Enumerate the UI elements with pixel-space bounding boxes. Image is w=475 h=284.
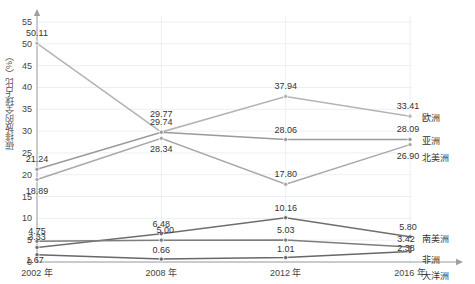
data-label: 28.34 [150, 144, 173, 154]
data-point [284, 216, 288, 220]
x-tick-label: 2012 年 [270, 266, 302, 279]
data-label: 5.80 [399, 222, 417, 232]
x-tick-label: 2008 年 [146, 266, 178, 279]
y-tick-label: 55 [12, 17, 32, 27]
emissions-line-chart: 碳排放的全球占比（%） 0510152025303540455055 2002 … [0, 0, 475, 284]
data-label: 5.03 [277, 225, 295, 235]
y-tick-label: 45 [12, 61, 32, 71]
data-label: 28.06 [274, 125, 297, 135]
series-lines [35, 41, 412, 261]
y-tick-label: 30 [12, 126, 32, 136]
legend-item-亚洲: 亚洲 [422, 134, 440, 147]
data-point [35, 41, 39, 45]
y-tick-label: 35 [12, 104, 32, 114]
legend-item-大洋洲: 大洋洲 [422, 269, 449, 282]
series-line-非洲 [37, 240, 410, 247]
data-point [159, 136, 163, 140]
data-label: 1.01 [277, 244, 295, 254]
y-tick-label: 40 [12, 82, 32, 92]
data-label: 26.90 [397, 151, 420, 161]
data-point [284, 182, 288, 186]
data-point [159, 130, 163, 134]
data-point [35, 245, 39, 249]
data-point [35, 167, 39, 171]
series-line-大洋洲 [37, 252, 410, 260]
data-point [408, 137, 412, 141]
data-label: 17.80 [274, 169, 297, 179]
data-label: 37.94 [274, 81, 297, 91]
series-line-亚洲 [37, 132, 410, 169]
data-label: 10.16 [274, 203, 297, 213]
data-label: 1.67 [26, 255, 44, 265]
x-tick-label: 2002 年 [21, 266, 53, 279]
data-label: 2.38 [397, 243, 415, 253]
y-tick-label: 20 [12, 170, 32, 180]
data-label: 4.75 [28, 226, 46, 236]
data-label: 18.89 [26, 186, 49, 196]
legend-item-北美洲: 北美洲 [422, 151, 449, 164]
data-point [284, 94, 288, 98]
data-point [284, 255, 288, 259]
legend-item-欧洲: 欧洲 [422, 111, 440, 124]
data-label: 28.09 [397, 124, 420, 134]
data-label: 33.41 [397, 101, 420, 111]
data-label: 50.11 [26, 28, 48, 38]
data-label: 5.00 [157, 225, 175, 235]
series-line-北美洲 [37, 138, 410, 184]
data-point [408, 114, 412, 118]
legend-item-非洲: 非洲 [422, 253, 440, 266]
data-point [159, 257, 163, 261]
legend-item-南美洲: 南美洲 [422, 232, 449, 245]
data-point [284, 137, 288, 141]
y-tick-label: 10 [12, 213, 32, 223]
data-label: 29.74 [150, 117, 173, 127]
series-line-南美洲 [37, 218, 410, 248]
data-point [284, 238, 288, 242]
data-point [159, 238, 163, 242]
y-tick-label: 50 [12, 39, 32, 49]
data-label: 21.24 [26, 154, 49, 164]
data-point [408, 143, 412, 147]
data-label: 0.66 [153, 245, 171, 255]
data-point [35, 177, 39, 181]
